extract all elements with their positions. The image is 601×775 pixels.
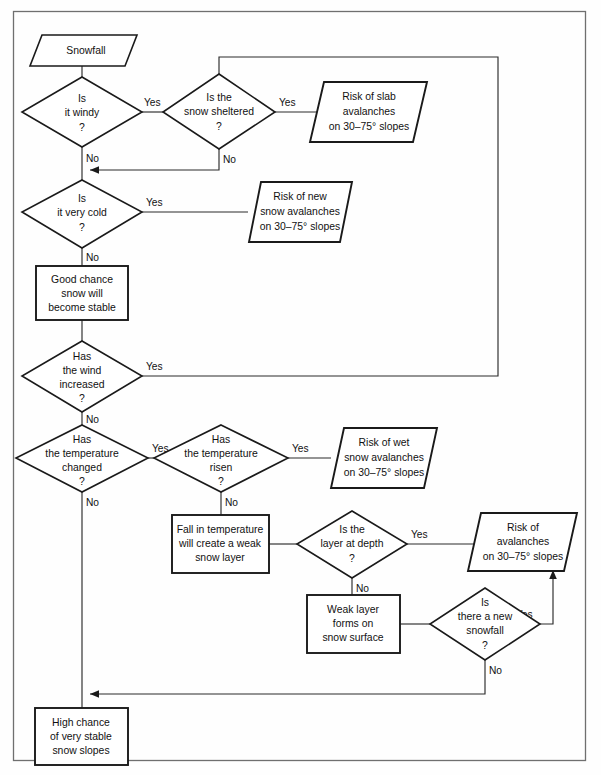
- node-risk-of-slab-avalanches[interactable]: Risk of slab avalanches on 30–75° slopes: [310, 82, 427, 142]
- is-it-very-cold-label-line1: Is: [78, 193, 86, 204]
- is-it-windy-label-line1: Is: [78, 93, 86, 104]
- arrowhead-newsnowfall-no: [90, 690, 99, 698]
- edge-label-temprisen-no: No: [225, 497, 238, 508]
- edge-label-layerdepth-no: No: [356, 583, 369, 594]
- edge-label-windy-no: No: [86, 153, 99, 164]
- risk-of-slab-avalanches-label-line3: on 30–75° slopes: [329, 121, 409, 132]
- flowchart-canvas: Yes No Yes No Yes No Yes No Yes No Yes N…: [0, 0, 601, 775]
- edge-label-sheltered-no: No: [223, 154, 236, 165]
- has-the-temperature-changed-label-line2: the temperature: [45, 448, 119, 459]
- is-the-snow-sheltered-label-line3: ?: [216, 121, 222, 132]
- node-is-it-windy[interactable]: Is it windy ?: [22, 77, 142, 147]
- is-there-a-new-snowfall-label-line3: snowfall: [466, 625, 504, 636]
- weak-layer-forms-on-snow-surface-label-line1: Weak layer: [327, 604, 379, 615]
- risk-of-wet-snow-avalanches-label-line3: on 30–75° slopes: [344, 467, 424, 478]
- has-the-wind-increased-label-line2: the wind: [63, 365, 102, 376]
- is-the-snow-sheltered-label-line2: snow sheltered: [184, 106, 254, 117]
- node-has-the-wind-increased[interactable]: Has the wind increased ?: [22, 341, 142, 412]
- edge-newsnowfall-no: [90, 660, 485, 694]
- is-it-very-cold-label-line2: it very cold: [57, 207, 107, 218]
- edge-label-temprisen-yes: Yes: [292, 443, 309, 454]
- good-chance-snow-stable-label-line2: snow will: [61, 288, 103, 299]
- risk-of-new-snow-avalanches-label-line3: on 30–75° slopes: [260, 221, 340, 232]
- edge-sheltered-no: [90, 149, 219, 170]
- node-risk-of-wet-snow-avalanches[interactable]: Risk of wet snow avalanches on 30–75° sl…: [331, 428, 437, 488]
- arrowhead-sheltered-no: [90, 166, 99, 174]
- node-is-the-layer-at-depth[interactable]: Is the layer at depth ?: [297, 511, 407, 578]
- node-has-the-temperature-risen[interactable]: Has the temperature risen ?: [154, 425, 288, 492]
- high-chance-very-stable-label-line3: snow slopes: [52, 745, 109, 756]
- node-snowfall[interactable]: Snowfall: [30, 35, 137, 66]
- good-chance-snow-stable-label-line1: Good chance: [51, 274, 113, 285]
- edge-label-windincreased-yes: Yes: [146, 361, 163, 372]
- edge-label-windincreased-no: No: [86, 414, 99, 425]
- is-there-a-new-snowfall-label-line4: ?: [482, 640, 488, 651]
- fall-in-temperature-weak-layer-label-line1: Fall in temperature: [177, 524, 264, 535]
- risk-of-avalanches-label-line3: on 30–75° slopes: [483, 551, 563, 562]
- edge-label-sheltered-yes: Yes: [279, 97, 296, 108]
- is-there-a-new-snowfall-label-line1: Is: [481, 597, 489, 608]
- fall-in-temperature-weak-layer-label-line3: snow layer: [195, 552, 245, 563]
- is-the-layer-at-depth-label-line2: layer at depth: [321, 538, 384, 549]
- node-fall-in-temperature-weak-layer[interactable]: Fall in temperature will create a weak s…: [172, 515, 269, 573]
- has-the-temperature-changed-label-line4: ?: [79, 476, 85, 487]
- weak-layer-forms-on-snow-surface-label-line2: forms on: [333, 618, 374, 629]
- node-is-there-a-new-snowfall[interactable]: Is there a new snowfall ?: [430, 588, 540, 660]
- node-is-it-very-cold[interactable]: Is it very cold ?: [22, 180, 142, 248]
- risk-of-new-snow-avalanches-label-line1: Risk of new: [273, 191, 327, 202]
- has-the-temperature-risen-label-line4: ?: [218, 476, 224, 487]
- has-the-temperature-risen-label-line2: the temperature: [184, 448, 258, 459]
- is-the-layer-at-depth-label-line3: ?: [349, 553, 355, 564]
- snowfall-label-line1: Snowfall: [66, 45, 105, 56]
- risk-of-new-snow-avalanches-label-line2: snow avalanches: [260, 206, 340, 217]
- is-the-layer-at-depth-label-line1: Is the: [339, 524, 365, 535]
- node-risk-of-avalanches[interactable]: Risk of avalanches on 30–75° slopes: [468, 513, 577, 571]
- risk-of-slab-avalanches-label-line2: avalanches: [343, 106, 396, 117]
- is-it-very-cold-label-line3: ?: [79, 222, 85, 233]
- node-risk-of-new-snow-avalanches[interactable]: Risk of new snow avalanches on 30–75° sl…: [249, 182, 352, 242]
- risk-of-slab-avalanches-label-line1: Risk of slab: [342, 91, 396, 102]
- node-weak-layer-forms-on-snow-surface[interactable]: Weak layer forms on snow surface: [307, 595, 400, 653]
- node-good-chance-snow-stable[interactable]: Good chance snow will become stable: [36, 266, 128, 320]
- edge-label-tempchanged-no: No: [86, 497, 99, 508]
- edge-label-verycold-yes: Yes: [146, 197, 163, 208]
- is-it-windy-label-line2: it windy: [65, 107, 100, 118]
- high-chance-very-stable-label-line1: High chance: [52, 717, 110, 728]
- risk-of-wet-snow-avalanches-label-line2: snow avalanches: [344, 452, 424, 463]
- has-the-wind-increased-label-line1: Has: [73, 351, 91, 362]
- risk-of-avalanches-label-line1: Risk of: [507, 522, 539, 533]
- has-the-temperature-risen-label-line3: risen: [210, 462, 233, 473]
- weak-layer-forms-on-snow-surface-label-line3: snow surface: [322, 632, 383, 643]
- high-chance-very-stable-label-line2: of very stable: [50, 731, 112, 742]
- has-the-temperature-risen-label-line1: Has: [212, 434, 230, 445]
- node-is-the-snow-sheltered[interactable]: Is the snow sheltered ?: [163, 74, 275, 149]
- is-the-snow-sheltered-label-line1: Is the: [206, 92, 232, 103]
- has-the-temperature-changed-label-line3: changed: [62, 462, 102, 473]
- has-the-temperature-changed-label-line1: Has: [73, 434, 91, 445]
- risk-of-avalanches-label-line2: avalanches: [497, 536, 550, 547]
- risk-of-wet-snow-avalanches-label-line1: Risk of wet: [359, 437, 410, 448]
- flowchart-page: Yes No Yes No Yes No Yes No Yes No Yes N…: [0, 0, 601, 775]
- is-it-windy-label-line3: ?: [79, 122, 85, 133]
- fall-in-temperature-weak-layer-label-line2: will create a weak: [178, 538, 262, 549]
- node-has-the-temperature-changed[interactable]: Has the temperature changed ?: [16, 425, 148, 492]
- edge-label-layerdepth-yes: Yes: [411, 529, 428, 540]
- edge-label-verycold-no: No: [86, 252, 99, 263]
- is-there-a-new-snowfall-label-line2: there a new: [458, 611, 513, 622]
- edge-label-newsnowfall-no: No: [489, 665, 502, 676]
- has-the-wind-increased-label-line3: increased: [59, 379, 104, 390]
- edge-label-windy-yes: Yes: [144, 97, 161, 108]
- good-chance-snow-stable-label-line3: become stable: [48, 302, 116, 313]
- edge-newsnowfall-yes: [540, 578, 553, 624]
- has-the-wind-increased-label-line4: ?: [79, 393, 85, 404]
- node-high-chance-very-stable[interactable]: High chance of very stable snow slopes: [35, 708, 128, 765]
